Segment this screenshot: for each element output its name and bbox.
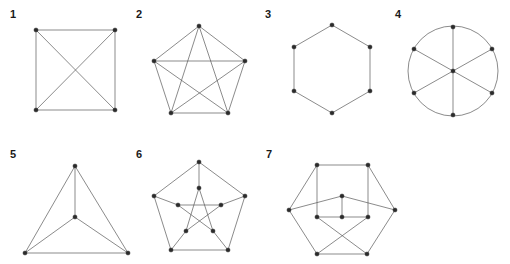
edge-outer-4-inner-4 (171, 231, 186, 250)
vertex-v-upper-right (490, 47, 494, 51)
edge-outer-5-inner-5 (154, 196, 178, 205)
figure-label-1: 1 (10, 8, 16, 20)
edge-outer-3-inner-3 (213, 231, 228, 250)
petersen-graph-alternate-drawing: 7 (266, 148, 397, 256)
edge-inner-3-inner-5 (178, 205, 213, 231)
figure-label-6: 6 (136, 148, 142, 160)
vertex-v4 (330, 111, 334, 115)
edge-v-center-v-upper-left (414, 49, 453, 71)
vertex-outer-right (393, 208, 397, 212)
edge-v-lower-right-v-center (453, 71, 492, 93)
vertex-outer-4 (169, 248, 173, 252)
edge-v-center-v-bottom-right (75, 217, 128, 253)
edge-v5-v1 (154, 26, 199, 61)
edge-inner-2-inner-4 (186, 205, 221, 231)
vertex-v3 (226, 111, 230, 115)
vertex-v-bottom (451, 113, 455, 117)
edge-v2-v4 (171, 61, 245, 113)
vertex-outer-3 (226, 248, 230, 252)
vertex-inner-center (340, 215, 344, 219)
vertex-v2 (368, 45, 372, 49)
edge-outer-left-inner-top (289, 196, 342, 210)
vertex-outer-bottom-left (315, 252, 319, 256)
edge-v2-v3 (228, 61, 245, 113)
vertex-outer-2 (243, 194, 247, 198)
cropped-top-text (0, 0, 510, 7)
vertex-v1 (34, 28, 38, 32)
figure-label-2: 2 (136, 8, 142, 20)
edge-outer-5-outer-1 (154, 162, 199, 196)
edge-outer-right-inner-top (342, 196, 395, 210)
vertex-v-center (73, 215, 77, 219)
vertex-v-lower-right (490, 91, 494, 95)
edge-outer-left-outer-top-left (289, 165, 317, 210)
vertex-v-lower-left (412, 91, 416, 95)
vertex-v2 (243, 59, 247, 63)
edge-outer-bottom-left-outer-left (289, 210, 317, 254)
vertex-inner-1 (197, 186, 201, 190)
edge-v6-v1 (294, 25, 332, 47)
vertex-v5 (152, 59, 156, 63)
vertex-v-center (451, 69, 455, 73)
vertex-v4 (34, 108, 38, 112)
vertex-v-bottom-left (23, 251, 27, 255)
vertex-v4 (169, 111, 173, 115)
figure-label-7: 7 (266, 148, 272, 160)
edge-v-apex-v-bottom-right (75, 166, 128, 253)
edge-outer-top-right-outer-right (368, 165, 395, 210)
edge-v4-v5 (154, 61, 171, 113)
petersen-graph-standard-drawing: 6 (136, 148, 247, 252)
vertex-outer-top-left (315, 163, 319, 167)
vertex-v-apex (73, 164, 77, 168)
vertex-v6 (292, 45, 296, 49)
edge-outer-2-outer-3 (228, 196, 245, 250)
figure-label-5: 5 (10, 148, 16, 160)
vertex-inner-4 (184, 229, 188, 233)
vertex-v3 (113, 108, 117, 112)
edge-v1-v2 (199, 26, 245, 61)
vertex-v3 (368, 89, 372, 93)
complete-graph-k4-planar-triangle-drawing: 5 (10, 148, 130, 255)
complete-graph-k5-pentagon-drawing: 2 (136, 8, 247, 115)
complete-graph-k4-square-drawing: 1 (10, 8, 117, 112)
edge-outer-right-outer-bottom-right (367, 210, 395, 254)
edge-v3-v5 (154, 61, 228, 113)
vertex-v-bottom-right (126, 251, 130, 255)
graph-figure-sheet: 1234567 (0, 0, 510, 264)
edge-v1-v2 (332, 25, 370, 47)
vertex-outer-left (287, 208, 291, 212)
vertex-v1 (197, 24, 201, 28)
figure-label-3: 3 (265, 8, 271, 20)
graph-canvas: 1234567 (0, 0, 510, 264)
edge-outer-2-inner-2 (221, 196, 245, 205)
vertex-inner-left (315, 215, 319, 219)
edge-v4-v5 (294, 91, 332, 113)
edge-v3-v4 (332, 91, 370, 113)
edge-v-apex-v-bottom-left (25, 166, 75, 253)
edge-outer-4-outer-5 (154, 196, 171, 250)
vertex-inner-2 (219, 203, 223, 207)
wheel-graph-w6-circle-with-three-diameters: 4 (395, 8, 498, 117)
edge-v1-v4 (171, 26, 199, 113)
vertex-v1 (330, 23, 334, 27)
edge-outer-1-outer-2 (199, 162, 245, 196)
vertex-v-top (451, 25, 455, 29)
edge-inner-4-inner-1 (186, 188, 199, 231)
vertex-v2 (113, 28, 117, 32)
vertex-outer-bottom-right (365, 252, 369, 256)
vertex-v-upper-left (412, 47, 416, 51)
vertex-inner-right (366, 215, 370, 219)
cycle-graph-c6-hexagon: 3 (265, 8, 372, 115)
edge-v-center-v-bottom-left (25, 217, 75, 253)
edge-inner-1-inner-3 (199, 188, 213, 231)
edge-v1-v3 (199, 26, 228, 113)
vertex-outer-1 (197, 160, 201, 164)
vertex-outer-5 (152, 194, 156, 198)
edge-v-center-v-lower-left (414, 71, 453, 93)
edge-v-upper-right-v-center (453, 49, 492, 71)
vertex-inner-3 (211, 229, 215, 233)
vertex-inner-top (340, 194, 344, 198)
vertex-inner-5 (176, 203, 180, 207)
vertex-outer-top-right (366, 163, 370, 167)
figure-label-4: 4 (395, 8, 402, 20)
